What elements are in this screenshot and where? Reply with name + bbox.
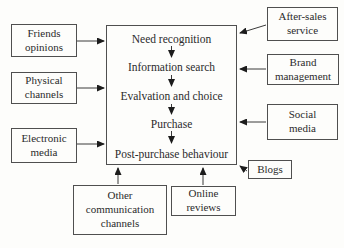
stage-information-search: Information search — [107, 60, 236, 74]
stage-evaluation-and-choice: Evalvation and choice — [107, 89, 236, 103]
arrow-blogs-to-process — [240, 166, 247, 171]
stage-purchase: Purchase — [107, 117, 236, 131]
box-other-communication-channels: Other communication channels — [73, 185, 167, 235]
consumer-decision-diagram: Friends opinions Physical channels Elect… — [0, 0, 344, 248]
box-decision-process: Need recognition Information search Eval… — [106, 25, 237, 165]
box-blogs: Blogs — [248, 160, 292, 179]
arrow-aftersales-to-process — [240, 25, 266, 33]
box-online-reviews: Online reviews — [171, 186, 236, 216]
box-friends-opinions: Friends opinions — [11, 24, 77, 57]
stage-post-purchase-behaviour: Post-purchase behaviour — [107, 147, 236, 161]
box-electronic-media: Electronic media — [11, 128, 77, 163]
box-after-sales-service: After-sales service — [267, 7, 338, 41]
box-brand-management: Brand management — [267, 54, 339, 85]
box-social-media: Social media — [267, 104, 338, 140]
box-physical-channels: Physical channels — [11, 72, 77, 104]
stage-need-recognition: Need recognition — [107, 32, 236, 46]
